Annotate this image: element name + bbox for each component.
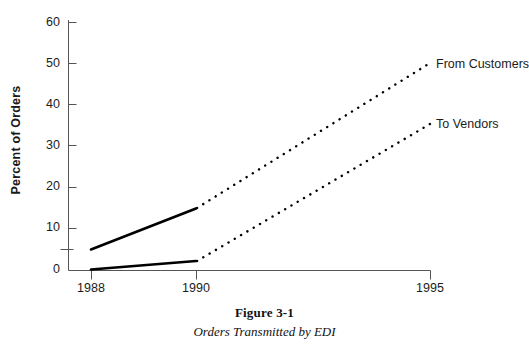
series-from-customers — [91, 63, 430, 250]
figure-caption: Figure 3-1 Orders Transmitted by EDI — [0, 305, 529, 340]
figure-number: Figure 3-1 — [0, 305, 529, 321]
y-axis-ticks — [69, 23, 77, 229]
series-from-customers-dotted — [197, 63, 430, 208]
series-from-customers-solid — [91, 209, 196, 250]
series-to-vendors — [91, 124, 430, 270]
figure-container: Percent of Orders 60 50 40 30 20 10 0 19… — [0, 0, 529, 350]
series-to-vendors-dotted — [197, 124, 430, 261]
series-to-vendors-solid — [91, 261, 196, 270]
series-label-to-vendors: To Vendors — [436, 118, 499, 131]
plot-area — [0, 0, 529, 350]
series-label-from-customers: From Customers — [436, 58, 529, 71]
figure-title: Orders Transmitted by EDI — [0, 324, 529, 340]
x-axis-ticks — [92, 271, 431, 280]
